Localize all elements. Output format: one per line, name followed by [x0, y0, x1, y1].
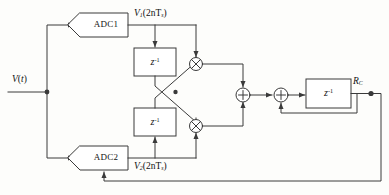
wire-input-to-adc2 [47, 92, 74, 158]
figure-canvas: V(t) ADC1 ADC2 z-1 z-1 z-1 V1(2nTs) V2(2… [0, 0, 389, 195]
adc2-output-signal-label: V2(2nTs) [134, 161, 167, 171]
delay-out-label: z-1 [306, 87, 351, 98]
delay-bottom-label: z-1 [134, 116, 176, 127]
delay-top-label: z-1 [134, 56, 176, 67]
input-signal-label: V(t) [12, 74, 27, 84]
adc2-label: ADC2 [88, 152, 124, 162]
wire-input-to-adc1 [47, 25, 74, 92]
output-signal-label: RC [353, 76, 363, 86]
wire-mult-bottom-to-adder1 [203, 102, 244, 126]
node-crossing [173, 90, 177, 94]
adc1-label: ADC1 [88, 19, 124, 29]
adc1-output-signal-label: V1(2nTs) [134, 8, 167, 18]
wire-mult-top-to-adder1 [203, 64, 244, 87]
